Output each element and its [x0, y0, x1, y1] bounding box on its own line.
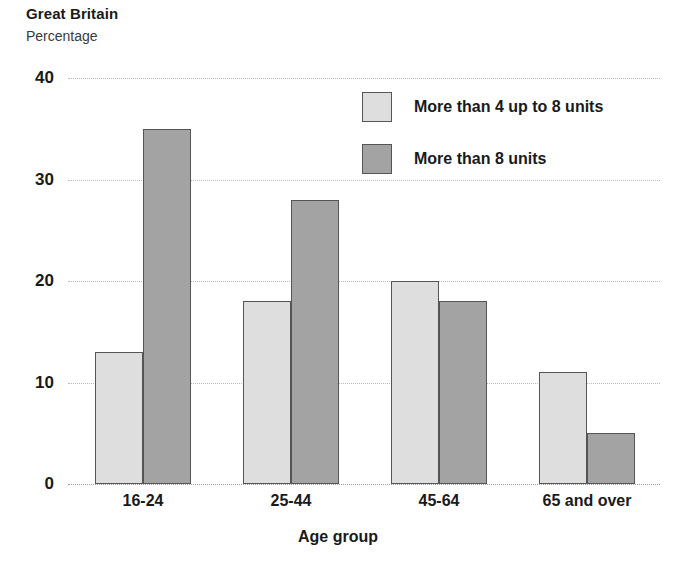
y-axis-tick-label: 0 — [8, 474, 54, 494]
y-axis-tick-label: 10 — [8, 373, 54, 393]
bar — [243, 301, 291, 484]
legend: More than 4 up to 8 units More than 8 un… — [362, 92, 603, 196]
gridline — [68, 484, 660, 485]
legend-label: More than 4 up to 8 units — [414, 98, 603, 116]
y-axis-tick-label: 40 — [8, 68, 54, 88]
legend-swatch-icon — [362, 92, 392, 122]
x-axis-label: Age group — [0, 528, 676, 546]
y-axis-tick-label: 30 — [8, 170, 54, 190]
bar — [143, 129, 191, 484]
legend-label: More than 8 units — [414, 150, 546, 168]
x-axis-tick-label: 65 and over — [543, 492, 632, 510]
bar — [291, 200, 339, 484]
bar — [587, 433, 635, 484]
bar — [95, 352, 143, 484]
x-axis-tick-label: 25-44 — [271, 492, 312, 510]
y-axis-tick-label: 20 — [8, 271, 54, 291]
bar — [391, 281, 439, 484]
x-axis-tick-label: 16-24 — [123, 492, 164, 510]
legend-item: More than 4 up to 8 units — [362, 92, 603, 122]
legend-swatch-icon — [362, 144, 392, 174]
bar — [539, 372, 587, 484]
chart-header: Great Britain Percentage — [26, 4, 426, 46]
chart-subtitle: Percentage — [26, 26, 426, 46]
page-title: Great Britain — [26, 4, 426, 24]
bar — [439, 301, 487, 484]
legend-item: More than 8 units — [362, 144, 603, 174]
x-axis-tick-label: 45-64 — [419, 492, 460, 510]
